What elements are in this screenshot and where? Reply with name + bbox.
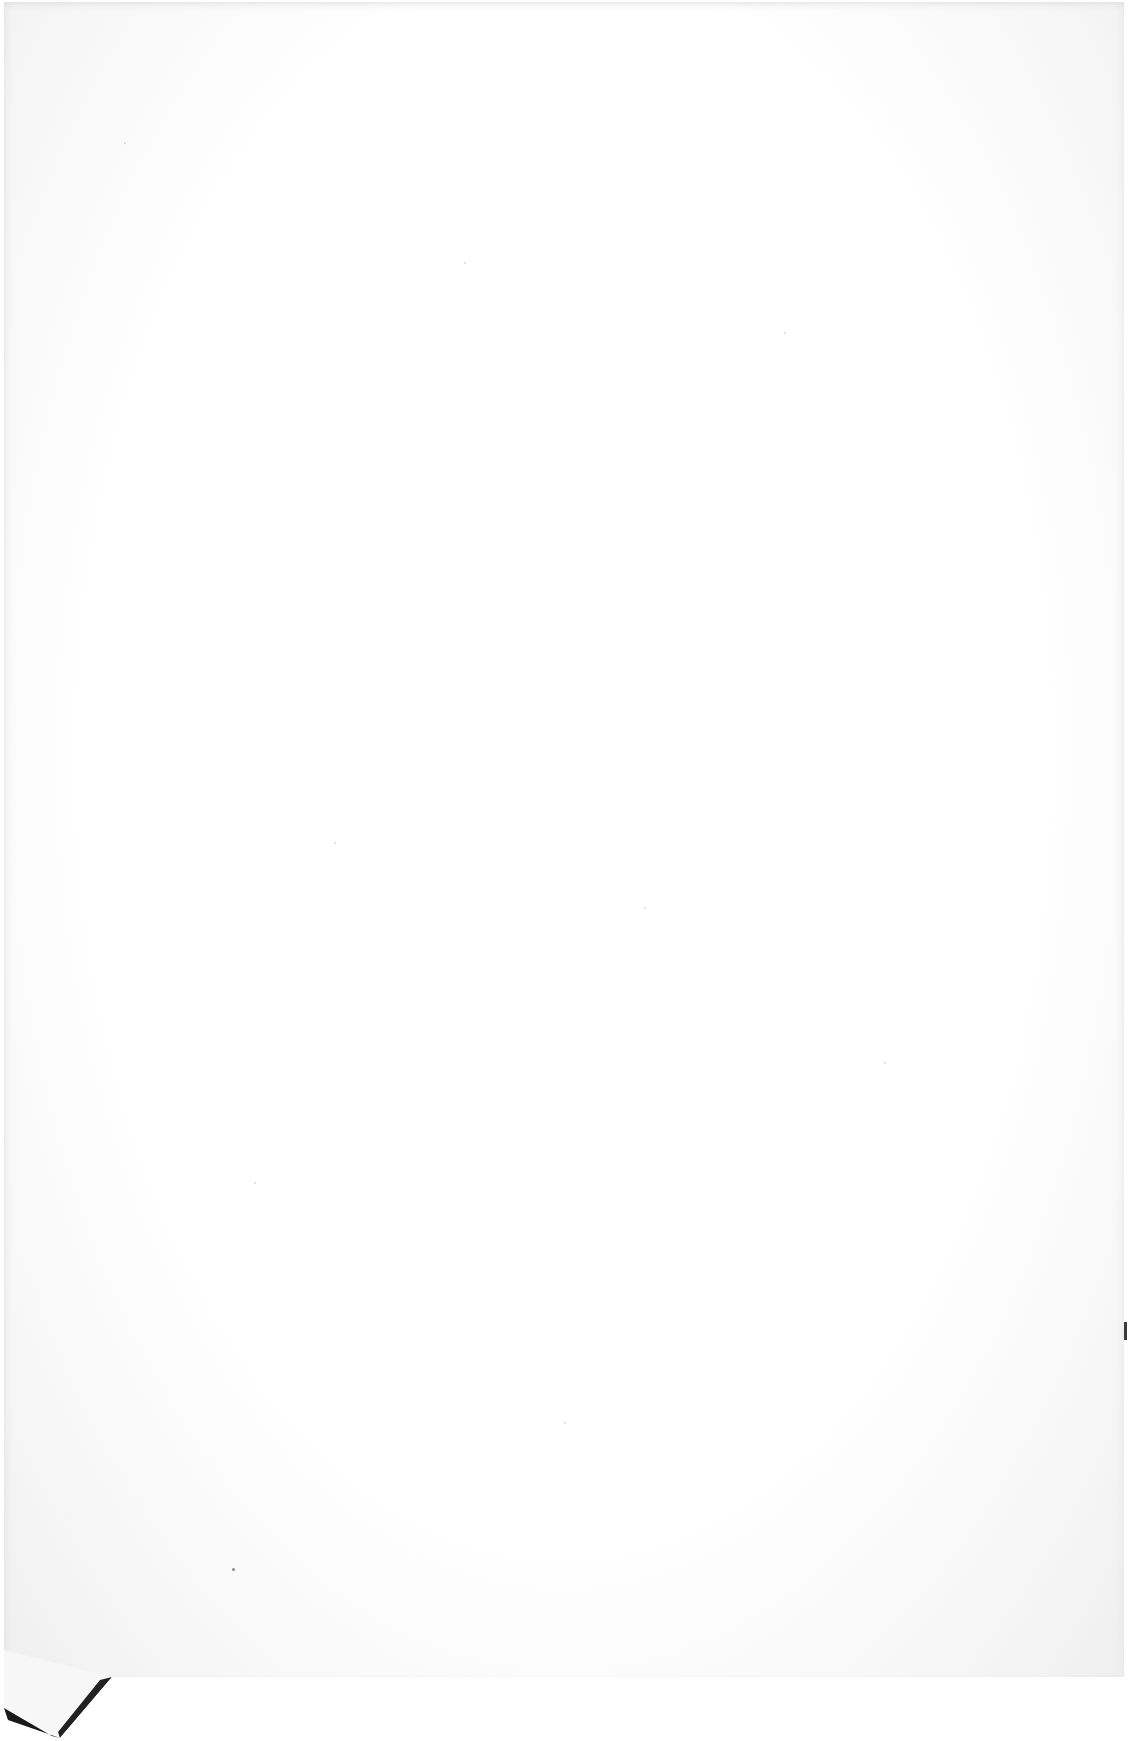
paper-speck — [564, 1422, 566, 1424]
ink-dot-mark — [232, 1568, 235, 1571]
paper-speck — [644, 907, 646, 909]
paper-speck — [334, 842, 336, 844]
scanned-page — [0, 0, 1128, 1741]
folded-corner — [0, 1650, 130, 1741]
blank-paper-sheet — [4, 2, 1124, 1677]
paper-speck — [124, 142, 126, 144]
paper-speck — [884, 1062, 886, 1064]
paper-speck — [784, 332, 786, 334]
paper-speck — [464, 262, 466, 264]
paper-speck — [254, 1182, 256, 1184]
edge-shadow-mark — [1124, 1322, 1127, 1340]
